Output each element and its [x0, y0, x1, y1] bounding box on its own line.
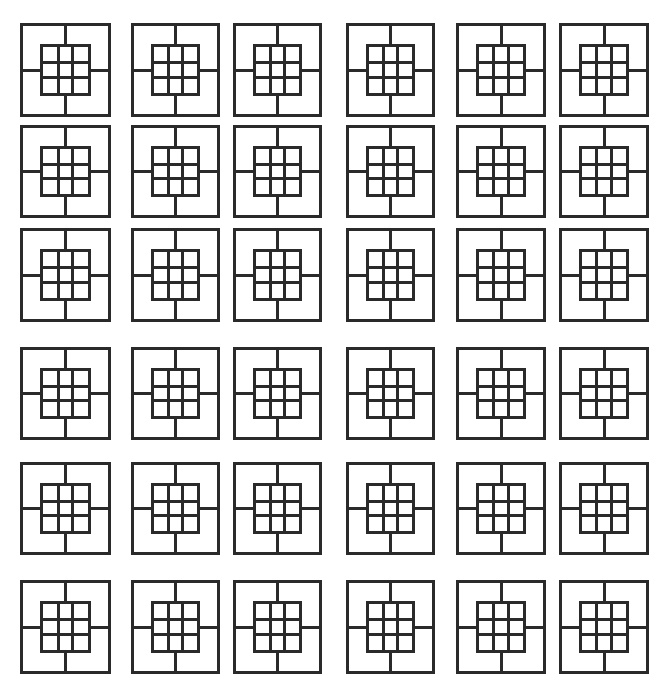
inner-grid-vline — [57, 47, 60, 92]
inner-3x3-grid — [476, 368, 526, 418]
conn-top-line — [276, 231, 279, 249]
tile — [346, 462, 435, 555]
inner-3x3-grid — [151, 483, 200, 533]
inner-grid-hline — [582, 633, 626, 636]
inner-grid-vline — [57, 486, 60, 530]
inner-grid-hline — [582, 618, 626, 621]
tile — [20, 228, 111, 322]
conn-right-line — [91, 274, 108, 277]
conn-right-line — [91, 170, 108, 173]
inner-grid-hline — [582, 514, 626, 517]
conn-left-line — [134, 507, 151, 510]
inner-grid-vline — [595, 252, 598, 297]
conn-bottom-line — [276, 301, 279, 319]
inner-grid-hline — [582, 61, 626, 64]
inner-grid-vline — [610, 149, 613, 193]
conn-left-line — [349, 392, 366, 395]
tile — [131, 462, 220, 555]
inner-grid-vline — [492, 371, 495, 415]
conn-left-line — [459, 392, 476, 395]
conn-top-line — [603, 128, 606, 146]
inner-grid-hline — [256, 76, 299, 79]
inner-grid-vline — [382, 252, 385, 297]
conn-top-line — [603, 465, 606, 483]
inner-grid-hline — [43, 281, 87, 284]
inner-grid-vline — [269, 371, 272, 415]
conn-bottom-line — [276, 96, 279, 114]
conn-left-line — [236, 274, 253, 277]
inner-grid-vline — [269, 486, 272, 530]
inner-grid-hline — [369, 633, 412, 636]
conn-right-line — [415, 69, 432, 72]
conn-bottom-line — [64, 419, 67, 437]
inner-grid-vline — [181, 47, 184, 92]
inner-grid-vline — [382, 371, 385, 415]
inner-grid-vline — [507, 149, 510, 193]
inner-grid-vline — [610, 47, 613, 92]
inner-3x3-grid — [151, 368, 200, 418]
inner-grid-vline — [396, 252, 399, 297]
tile — [559, 228, 649, 322]
inner-grid-hline — [256, 163, 299, 166]
inner-grid-hline — [479, 385, 523, 388]
inner-grid-hline — [479, 500, 523, 503]
conn-top-line — [276, 128, 279, 146]
inner-grid-hline — [479, 399, 523, 402]
conn-top-line — [500, 128, 503, 146]
tile — [456, 228, 546, 322]
conn-top-line — [276, 583, 279, 601]
inner-grid-hline — [256, 281, 299, 284]
conn-right-line — [415, 170, 432, 173]
inner-grid-vline — [71, 47, 74, 92]
conn-right-line — [200, 170, 217, 173]
inner-grid-hline — [43, 61, 87, 64]
conn-right-line — [91, 626, 108, 629]
inner-grid-hline — [154, 514, 197, 517]
conn-left-line — [23, 626, 40, 629]
conn-bottom-line — [389, 653, 392, 671]
inner-grid-vline — [610, 486, 613, 530]
inner-grid-vline — [507, 371, 510, 415]
conn-top-line — [603, 231, 606, 249]
inner-grid-vline — [167, 149, 170, 193]
conn-left-line — [349, 69, 366, 72]
conn-right-line — [629, 274, 646, 277]
inner-grid-vline — [492, 252, 495, 297]
conn-left-line — [562, 507, 579, 510]
conn-top-line — [174, 465, 177, 483]
tile — [559, 125, 649, 218]
inner-grid-vline — [283, 47, 286, 92]
conn-bottom-line — [500, 197, 503, 215]
inner-grid-hline — [369, 163, 412, 166]
inner-grid-vline — [181, 604, 184, 649]
conn-right-line — [526, 507, 543, 510]
conn-left-line — [349, 170, 366, 173]
tile — [346, 580, 435, 674]
conn-right-line — [91, 507, 108, 510]
conn-bottom-line — [174, 96, 177, 114]
conn-top-line — [603, 350, 606, 368]
conn-top-line — [389, 350, 392, 368]
inner-grid-vline — [595, 47, 598, 92]
conn-left-line — [459, 274, 476, 277]
inner-grid-vline — [507, 486, 510, 530]
inner-3x3-grid — [579, 368, 629, 418]
inner-grid-hline — [154, 163, 197, 166]
inner-grid-vline — [595, 486, 598, 530]
conn-left-line — [134, 392, 151, 395]
conn-bottom-line — [174, 197, 177, 215]
inner-3x3-grid — [579, 146, 629, 196]
tile — [346, 347, 435, 440]
conn-left-line — [562, 626, 579, 629]
conn-top-line — [389, 128, 392, 146]
inner-grid-hline — [582, 385, 626, 388]
conn-top-line — [389, 231, 392, 249]
inner-grid-vline — [57, 149, 60, 193]
inner-grid-hline — [369, 514, 412, 517]
conn-left-line — [23, 507, 40, 510]
conn-left-line — [236, 626, 253, 629]
tile — [456, 462, 546, 555]
conn-bottom-line — [603, 96, 606, 114]
tile — [131, 228, 220, 322]
inner-grid-vline — [382, 149, 385, 193]
